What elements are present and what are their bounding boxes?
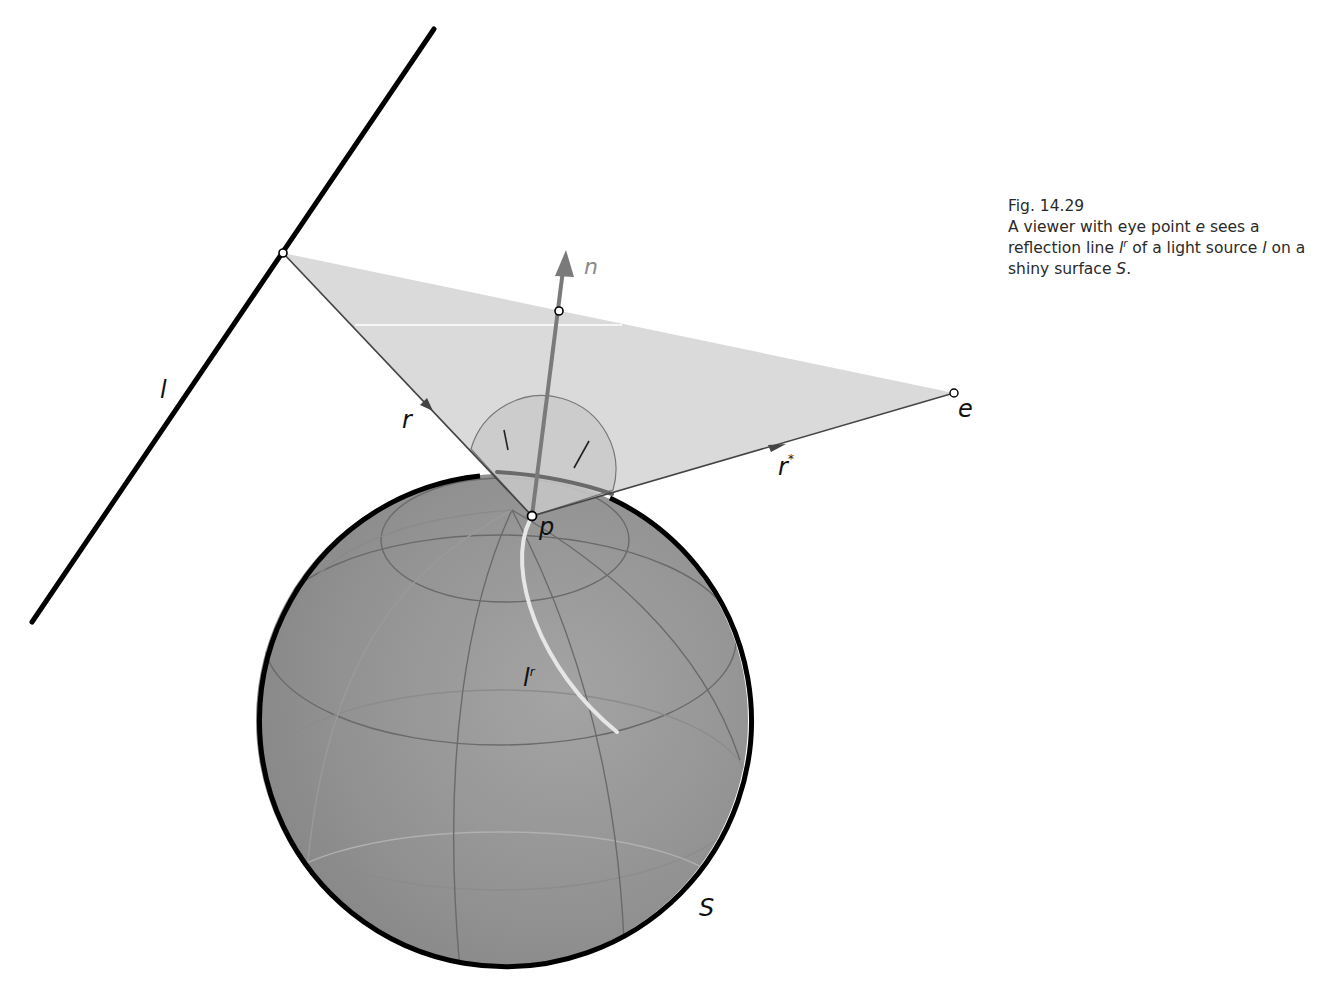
label-p: p bbox=[538, 513, 554, 541]
label-e: e bbox=[958, 395, 973, 423]
label-S: S bbox=[699, 894, 714, 922]
reflection-plane bbox=[283, 253, 954, 516]
label-l: l bbox=[160, 376, 167, 404]
eye-point-marker bbox=[950, 389, 958, 397]
label-r: r bbox=[402, 406, 414, 434]
figure-caption: Fig. 14.29 A viewer with eye point e see… bbox=[1008, 196, 1326, 280]
surface-point-marker bbox=[528, 512, 537, 521]
caption-text: A viewer with eye point e sees a reflect… bbox=[1008, 218, 1305, 278]
light-point bbox=[279, 249, 287, 257]
figure-number: Fig. 14.29 bbox=[1008, 196, 1326, 217]
sphere-surface bbox=[250, 474, 751, 970]
reflection-diagram: l n e r r* p lr S bbox=[0, 0, 1326, 993]
label-r-star: r* bbox=[778, 452, 794, 481]
label-n: n bbox=[584, 254, 598, 279]
